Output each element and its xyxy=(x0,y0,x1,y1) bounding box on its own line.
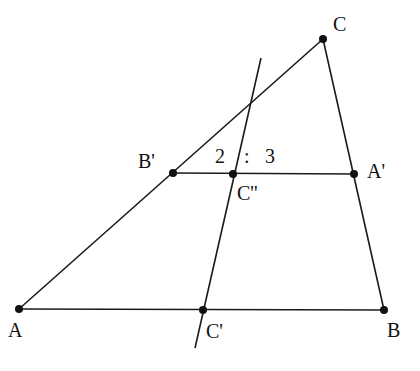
segment-bp-ap xyxy=(173,173,354,174)
segments xyxy=(19,39,384,348)
geometry-diagram: A B C C' B' A' C'' 2 : 3 xyxy=(0,0,420,371)
label-c-double-prime: C'' xyxy=(237,182,258,204)
labels: A B C C' B' A' C'' 2 : 3 xyxy=(8,13,400,342)
ratio-right: 3 xyxy=(265,145,275,167)
label-a-prime: A' xyxy=(367,160,385,182)
label-a: A xyxy=(8,319,23,341)
ratio-colon: : xyxy=(244,145,250,167)
point-a xyxy=(15,305,23,313)
label-c-prime: C' xyxy=(206,320,223,342)
point-b-prime xyxy=(169,169,177,177)
point-c-double-prime xyxy=(229,170,237,178)
point-c-prime xyxy=(199,306,207,314)
point-c xyxy=(319,35,327,43)
label-c: C xyxy=(333,13,346,35)
point-a-prime xyxy=(350,170,358,178)
label-b-prime: B' xyxy=(138,150,155,172)
label-b: B xyxy=(387,319,400,341)
point-b xyxy=(380,306,388,314)
ratio-left: 2 xyxy=(215,145,225,167)
